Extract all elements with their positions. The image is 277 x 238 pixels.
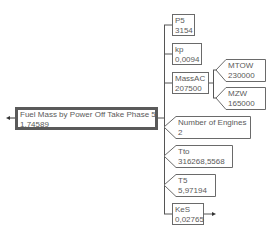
root-output-arrow-icon	[6, 116, 10, 120]
node-engines-label: Number of Engines	[178, 118, 249, 128]
node-t5[interactable]: T5 5,97194	[176, 175, 216, 197]
node-kp[interactable]: kp 0,0094	[172, 43, 202, 65]
node-kes-label: KeS	[175, 205, 201, 215]
node-mzw[interactable]: MZW 165000	[226, 88, 266, 110]
node-massac-label: MassAC	[175, 74, 206, 84]
root-node-label: Fuel Mass by Power Off Take Phase 5	[20, 110, 153, 120]
node-massac-value: 207500	[175, 84, 206, 94]
node-number-of-engines[interactable]: Number of Engines 2	[176, 117, 251, 139]
root-node-fuel-mass[interactable]: Fuel Mass by Power Off Take Phase 5 1,74…	[15, 107, 158, 130]
node-mtow-label: MTOW	[228, 61, 264, 71]
node-p5-label: P5	[175, 16, 192, 26]
node-tto-label: Tto	[178, 147, 231, 157]
node-tto-value: 316268,5568	[178, 157, 231, 167]
kes-output-arrow-icon	[212, 212, 216, 216]
node-p5-value: 3154	[175, 26, 192, 36]
node-mzw-label: MZW	[228, 89, 264, 99]
node-p5[interactable]: P5 3154	[172, 14, 195, 36]
node-t5-value: 5,97194	[178, 186, 214, 196]
root-node-value: 1,74589	[20, 120, 153, 130]
node-tto[interactable]: Tto 316268,5568	[176, 146, 233, 168]
node-kp-label: kp	[175, 45, 199, 55]
node-mtow[interactable]: MTOW 230000	[226, 60, 266, 82]
node-kes[interactable]: KeS 0,02765	[172, 203, 204, 225]
node-kes-value: 0,02765	[175, 215, 201, 225]
node-t5-label: T5	[178, 176, 214, 186]
node-mtow-value: 230000	[228, 71, 264, 81]
node-kp-value: 0,0094	[175, 55, 199, 65]
node-mzw-value: 165000	[228, 99, 264, 109]
node-massac[interactable]: MassAC 207500	[172, 72, 209, 94]
node-engines-value: 2	[178, 128, 249, 138]
